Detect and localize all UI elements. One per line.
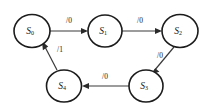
transition-s3-to-s4-label: /0 xyxy=(102,72,108,81)
fsm-diagram-canvas: /0 /0 /0 /0 /1 S0 xyxy=(0,0,211,112)
state-node-s3[interactable]: S3 xyxy=(129,70,163,102)
transition-s4-to-s0-line xyxy=(44,45,57,70)
state-node-s0-subscript: 0 xyxy=(31,30,34,36)
transition-s3-to-s4-arrowhead xyxy=(82,83,89,89)
state-node-s0[interactable]: S0 xyxy=(14,15,50,48)
state-node-s2-subscript: 2 xyxy=(179,30,182,36)
transition-s4-to-s0: /1 xyxy=(42,42,63,71)
transition-s0-to-s1-label: /0 xyxy=(66,16,72,25)
state-node-s4[interactable]: S4 xyxy=(47,70,82,102)
transition-s2-to-s3: /0 xyxy=(151,47,174,75)
state-node-s1[interactable]: S1 xyxy=(88,15,122,47)
state-node-s3-subscript: 3 xyxy=(145,85,148,91)
transition-s4-to-s0-label: /1 xyxy=(57,45,63,54)
transition-s0-to-s1-arrowhead xyxy=(81,28,88,34)
transition-s1-to-s2-label: /0 xyxy=(137,16,143,25)
transition-s3-to-s4: /0 xyxy=(82,72,129,89)
state-machine-svg: /0 /0 /0 /0 /1 S0 xyxy=(0,0,211,112)
transition-s0-to-s1: /0 xyxy=(50,16,88,34)
state-node-s4-subscript: 4 xyxy=(63,85,66,91)
transition-s2-to-s3-label: /0 xyxy=(157,51,163,60)
transition-s1-to-s2-arrowhead xyxy=(155,28,162,34)
state-node-s1-subscript: 1 xyxy=(104,30,107,36)
transition-s1-to-s2: /0 xyxy=(122,16,162,34)
state-node-s2[interactable]: S2 xyxy=(162,15,198,48)
